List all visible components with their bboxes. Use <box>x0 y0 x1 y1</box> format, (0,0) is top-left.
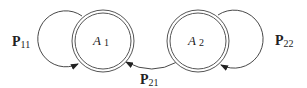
transition-label-p21: P21 <box>140 72 159 88</box>
state-diagram: A1 A2 P11 P21 P22 <box>0 0 307 88</box>
transition-label-p22: P22 <box>275 33 294 49</box>
transition-a2-a1 <box>126 62 177 69</box>
transition-label-p11: P11 <box>12 34 30 50</box>
